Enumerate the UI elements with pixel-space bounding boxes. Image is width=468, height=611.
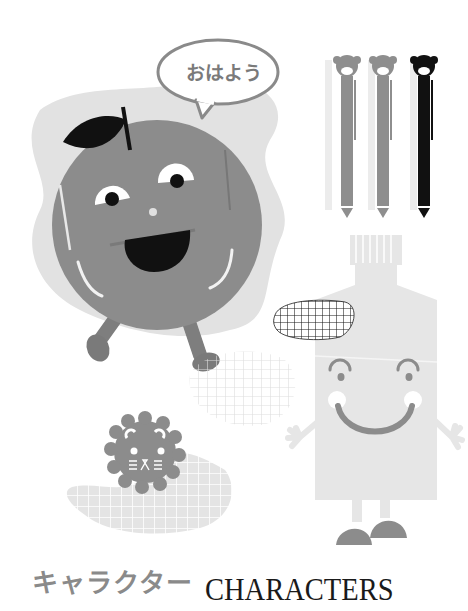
grid-blob-small — [190, 352, 296, 426]
crosshatch-patch — [274, 300, 354, 339]
speech-bubble-text: おはよう — [186, 58, 262, 85]
bear-pen-1 — [333, 55, 361, 218]
bear-pens — [325, 55, 438, 218]
toothpaste-tube-character — [288, 235, 462, 545]
title-english: CHARACTERS — [205, 572, 394, 608]
title-japanese: キャラクター — [32, 562, 193, 599]
illustration-canvas — [0, 0, 468, 611]
